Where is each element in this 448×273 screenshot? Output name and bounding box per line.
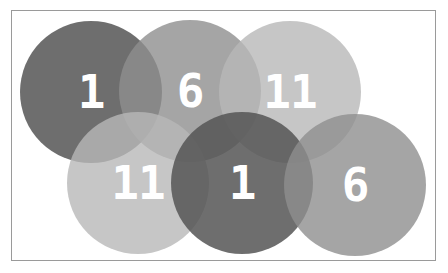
circle-label: 6 (342, 162, 369, 208)
circle-label: 11 (263, 69, 316, 115)
circle-6-bottom: 6 (284, 114, 426, 256)
circle-label: 6 (177, 68, 204, 114)
circle-label: 11 (111, 160, 164, 206)
circle-label: 1 (78, 69, 105, 115)
circle-label: 1 (229, 160, 256, 206)
